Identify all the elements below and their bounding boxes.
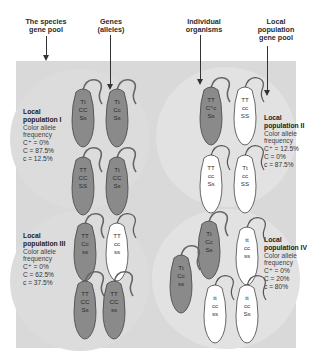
genotype-tail: TT <box>70 290 100 298</box>
genotype-tail: TT <box>99 290 129 298</box>
genotype-spots: SS <box>68 182 98 190</box>
genotype-color: cc <box>232 244 262 252</box>
genotype-color: cc <box>200 302 230 310</box>
genotype-color: CC <box>70 298 100 306</box>
mouse: TT CC ss <box>99 276 129 342</box>
mouse: TT CC Ss <box>70 276 100 342</box>
allele-C: C = 0% <box>264 153 304 161</box>
mouse: TT cc Ss <box>196 150 226 216</box>
subtitle: frequency <box>264 259 307 267</box>
mouse: TT Cc ss <box>70 218 100 284</box>
genotype-tail: tt <box>232 294 262 302</box>
mouse: Tt Cc ss <box>166 250 196 316</box>
genotype-tail: Tt <box>102 166 132 174</box>
genotype-color: CC <box>99 298 129 306</box>
allele-c-plus: C⁺ = 0% <box>23 139 62 147</box>
arrow-individual-organisms <box>200 35 201 80</box>
allele-C: C = 87.5% <box>23 147 62 155</box>
genotype-color: Cc <box>70 240 100 248</box>
genotype-spots: Ss <box>68 114 98 122</box>
subtitle: Color allele <box>264 252 307 260</box>
subtitle: frequency <box>23 255 65 263</box>
population-title: Localpopulation II <box>264 114 304 130</box>
allele-c-plus: C⁺ = 12.5% <box>264 145 304 153</box>
population-label-4: Localpopulation IV Color allele frequenc… <box>264 236 307 291</box>
genotype-color: C⁺c <box>196 104 226 112</box>
genotype-tail: Tt <box>230 164 260 172</box>
genotype-color: Cc <box>102 106 132 114</box>
genotype-spots: ss <box>166 280 196 288</box>
label-species-gene-pool: The species gene pool <box>16 18 76 34</box>
arrow-head-icon <box>264 90 270 96</box>
allele-C: C = 20% <box>264 275 307 283</box>
genotype-spots: ss <box>102 248 132 256</box>
genotype-tail: tt <box>232 236 262 244</box>
allele-C: C = 62.5% <box>23 271 65 279</box>
genotype-color: cc <box>232 302 262 310</box>
allele-c-plus: C⁺ = 0% <box>23 263 65 271</box>
genotype-spots: ss <box>70 248 100 256</box>
genotype-tail: TT <box>68 166 98 174</box>
population-title: Localpopulation I <box>23 108 62 124</box>
genotype-tail: TT <box>70 232 100 240</box>
genotype-color: cc <box>230 172 260 180</box>
genotype-color: CC <box>68 174 98 182</box>
mouse: tt cc ss <box>200 280 230 346</box>
genotype-spots: SS <box>230 180 260 188</box>
genotype-color: cc <box>102 240 132 248</box>
genotype-tail: TT <box>196 96 226 104</box>
genotype-spots: Ss <box>102 182 132 190</box>
genotype-color: Cc <box>194 238 224 246</box>
arrow-local-population <box>267 46 268 91</box>
genotype-tail: TT <box>102 232 132 240</box>
arrow-head-icon <box>43 55 49 61</box>
mouse: Tt cc SS <box>230 150 260 216</box>
genotype-tail: Tt <box>102 98 132 106</box>
allele-c: c = 80% <box>264 283 307 291</box>
arrow-genes <box>110 35 111 85</box>
genotype-tail: tt <box>200 294 230 302</box>
allele-c: c = 87.5% <box>264 161 304 169</box>
genotype-spots: Ss <box>232 310 262 318</box>
subtitle: Color allele <box>23 248 65 256</box>
genotype-spots: Ss <box>196 180 226 188</box>
mouse: Tt Cc Ss <box>102 84 132 150</box>
mouse: Tt CC Ss <box>68 84 98 150</box>
genotype-spots: ss <box>232 252 262 260</box>
genotype-spots: SS <box>230 112 260 120</box>
genotype-tail: Tt <box>166 264 196 272</box>
allele-c: c = 37.5% <box>23 279 65 287</box>
subtitle: frequency <box>264 137 304 145</box>
allele-c: c = 12.5% <box>23 155 62 163</box>
population-title: Localpopulation III <box>23 232 65 248</box>
genotype-spots: Ss <box>102 114 132 122</box>
genotype-tail: Tt <box>68 98 98 106</box>
genotype-color: CC <box>102 174 132 182</box>
label-individual-organisms: Individual organisms <box>174 18 234 34</box>
mouse: tt cc ss <box>232 222 262 288</box>
genotype-tail: Tt <box>194 230 224 238</box>
allele-c-plus: C⁺ = 0% <box>264 267 307 275</box>
genotype-tail: TT <box>230 96 260 104</box>
mouse: TT C⁺c Ss <box>196 82 226 148</box>
mouse: Tt CC Ss <box>102 152 132 218</box>
subtitle: Color allele <box>23 124 62 132</box>
population-label-2: Localpopulation II Color allele frequenc… <box>264 114 304 169</box>
mouse: tt cc Ss <box>232 280 262 346</box>
genotype-color: CC <box>68 106 98 114</box>
genotype-tail: TT <box>196 164 226 172</box>
genotype-spots: Ss <box>196 112 226 120</box>
population-label-3: Localpopulation III Color allele frequen… <box>23 232 65 287</box>
genotype-color: Cc <box>166 272 196 280</box>
genotype-color: cc <box>196 172 226 180</box>
genotype-spots: ss <box>99 306 129 314</box>
genotype-color: cc <box>230 104 260 112</box>
population-title: Localpopulation IV <box>264 236 307 252</box>
subtitle: Color allele <box>264 130 304 138</box>
genotype-spots: ss <box>200 310 230 318</box>
population-label-1: Localpopulation I Color allele frequency… <box>23 108 62 163</box>
mouse: TT cc SS <box>230 82 260 148</box>
arrow-species-gene-pool <box>46 36 47 56</box>
genotype-spots: Ss <box>70 306 100 314</box>
label-genes-alleles: Genes (alleles) <box>86 18 136 34</box>
